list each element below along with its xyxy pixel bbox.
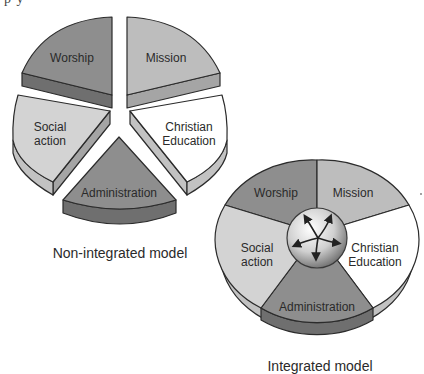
integrated-worship-label: Worship <box>254 186 298 200</box>
integrated-social-action-line1: Social <box>241 241 274 255</box>
integrated-caption: Integrated model <box>267 358 372 374</box>
social-action-label-line2: action <box>34 134 66 148</box>
integrated-christian-education-line1: Christian <box>351 241 398 255</box>
segment-worship-detached: Worship <box>22 17 112 108</box>
models-diagram: Worship Mission Social action Christian … <box>0 0 424 374</box>
mission-label: Mission <box>146 51 187 65</box>
non-integrated-caption: Non-integrated model <box>53 245 188 261</box>
social-action-label-line1: Social <box>34 120 67 134</box>
non-integrated-model: Worship Mission Social action Christian … <box>13 17 227 261</box>
integrated-mission-label: Mission <box>333 186 374 200</box>
christian-education-label-line1: Christian <box>165 120 212 134</box>
integrated-social-action-line2: action <box>241 255 273 269</box>
administration-label: Administration <box>81 186 157 200</box>
worship-label: Worship <box>50 51 94 65</box>
segment-mission-detached: Mission <box>127 17 220 108</box>
integrated-model: Worship Mission Christian Education Soci… <box>215 160 419 374</box>
integrated-christian-education-line2: Education <box>348 255 401 269</box>
integrated-administration-label: Administration <box>279 300 355 314</box>
circular-arrows-icon <box>287 208 347 268</box>
christian-education-label-line2: Education <box>162 134 215 148</box>
stray-dot <box>420 193 422 195</box>
